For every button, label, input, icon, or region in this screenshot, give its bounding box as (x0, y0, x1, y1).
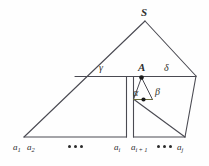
label-terminal-a-i-plus-1: ai + 1 (131, 143, 148, 153)
inner-region-hypotenuse (134, 100, 185, 138)
beta-edge (142, 78, 153, 100)
label-terminal-a-j: aj (177, 143, 183, 153)
label-root-S: S (141, 7, 147, 18)
label-terminal-a-2: a2 (27, 143, 35, 153)
terminal-sub-a-i-plus-1: i + 1 (136, 146, 148, 153)
terminal-sub-a-2: 2 (32, 146, 35, 153)
ellipsis-left-dot-3 (80, 145, 83, 148)
label-angle-beta: β (155, 87, 160, 97)
outer-triangle-right-edge-upper (145, 21, 196, 76)
ellipsis-right-dot-2 (163, 145, 166, 148)
label-angle-alpha: α (133, 88, 138, 98)
label-angle-delta: δ (164, 63, 169, 73)
label-terminal-a-i: ai (114, 143, 120, 153)
terminal-sub-a-j: j (182, 146, 184, 153)
ellipsis-right-dot-1 (157, 145, 160, 148)
label-terminal-a-1: a1 (13, 143, 21, 153)
node-dot-inner (141, 97, 145, 101)
node-dot-A (139, 75, 144, 80)
ellipsis-left (68, 145, 83, 148)
ellipsis-left-dot-2 (74, 145, 77, 148)
terminal-sub-a-1: 1 (18, 146, 21, 153)
ellipsis-left-dot-1 (68, 145, 71, 148)
outer-triangle (24, 21, 196, 137)
label-node-A: A (138, 62, 145, 73)
outer-triangle-right-edge-lower (185, 76, 196, 137)
ellipsis-right (157, 145, 172, 148)
parse-tree-figure: S γ A δ α β a1 a2 ai ai + 1 aj (0, 0, 209, 166)
label-angle-gamma: γ (99, 63, 103, 73)
ellipsis-right-dot-3 (169, 145, 172, 148)
terminal-sub-a-i: i (119, 146, 121, 153)
